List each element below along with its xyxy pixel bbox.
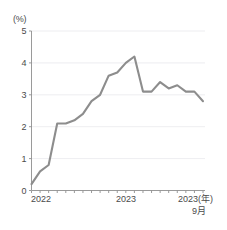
- y-axis-tick-label: 1: [21, 154, 26, 164]
- x-axis-label-middle: 2023: [116, 194, 136, 204]
- chart-plot-area: 012345 2022 2023 2023(年) 9月: [0, 0, 227, 230]
- y-axis-tick-label: 3: [21, 90, 26, 100]
- y-axis-tick-label: 2: [21, 122, 26, 132]
- y-axis-tick-label: 0: [21, 186, 26, 196]
- x-axis-label-start: 2022: [31, 194, 51, 204]
- y-axis-tick-label: 4: [21, 58, 26, 68]
- x-axis-sublabel-month: 9月: [192, 206, 206, 216]
- y-axis-tick-label: 5: [21, 26, 26, 36]
- y-axis-tick-labels: 012345: [21, 26, 26, 196]
- line-chart: (%) 012345 2022 2023 2023(年) 9月: [0, 0, 227, 230]
- data-series-line: [32, 57, 204, 185]
- x-axis-label-end: 2023(年): [178, 193, 213, 204]
- gridlines-group: [29, 31, 205, 191]
